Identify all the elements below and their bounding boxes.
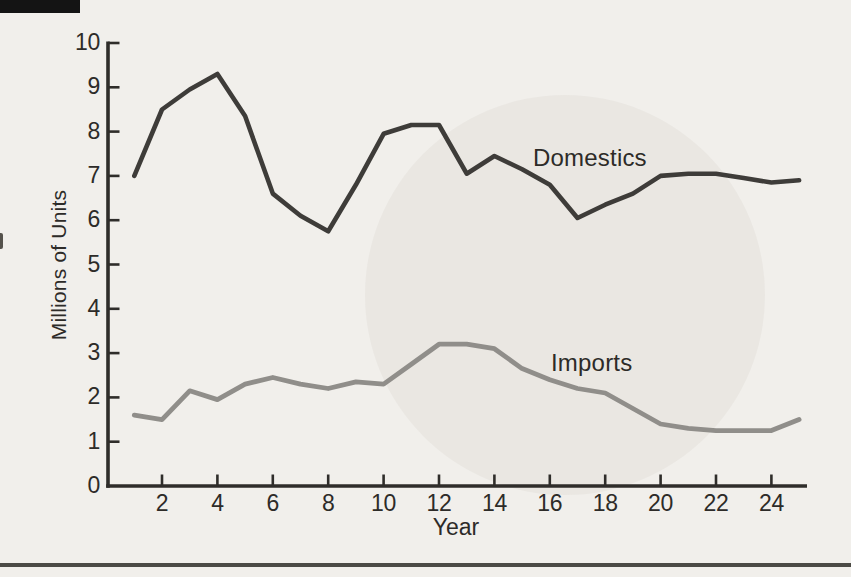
x-axis-title: Year (433, 516, 479, 539)
y-tick-label: 0 (88, 472, 101, 498)
x-tick-label: 12 (427, 490, 452, 516)
y-tick-label: 6 (88, 206, 101, 232)
x-tick-label: 24 (759, 490, 784, 516)
x-tick-label: 22 (704, 490, 729, 516)
y-tick-label: 7 (88, 162, 101, 188)
y-tick-label: 10 (75, 29, 100, 55)
x-tick-label: 2 (156, 490, 169, 516)
imports-series-label: Imports (551, 351, 632, 375)
bottom-rule (0, 563, 851, 567)
x-tick-label: 20 (648, 490, 673, 516)
y-tick-label: 9 (88, 73, 101, 99)
imports-line (134, 344, 799, 430)
scanned-chart-page: 01234567891024681012141618202224 Domesti… (0, 0, 851, 577)
x-tick-label: 6 (267, 490, 280, 516)
x-tick-label: 14 (482, 490, 507, 516)
x-tick-label: 8 (322, 490, 335, 516)
x-tick-label: 16 (537, 490, 562, 516)
y-tick-label: 4 (88, 295, 101, 321)
line-chart: 01234567891024681012141618202224 (0, 0, 851, 577)
x-tick-label: 10 (371, 490, 396, 516)
y-axis-title: Millions of Units (48, 190, 69, 340)
y-tick-label: 5 (88, 251, 101, 277)
y-tick-label: 3 (88, 339, 101, 365)
y-tick-label: 2 (88, 383, 101, 409)
x-tick-label: 18 (593, 490, 618, 516)
domestics-line (134, 74, 799, 231)
y-tick-label: 8 (88, 118, 101, 144)
y-tick-label: 1 (88, 428, 101, 454)
domestics-series-label: Domestics (533, 146, 647, 170)
x-tick-label: 4 (211, 490, 224, 516)
